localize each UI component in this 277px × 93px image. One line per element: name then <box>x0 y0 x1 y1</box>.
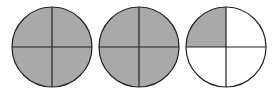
fraction-circle-1 <box>12 7 92 87</box>
fraction-circle-2 <box>99 7 179 87</box>
fraction-circle-3 <box>186 7 266 87</box>
fraction-diagram <box>0 0 277 93</box>
